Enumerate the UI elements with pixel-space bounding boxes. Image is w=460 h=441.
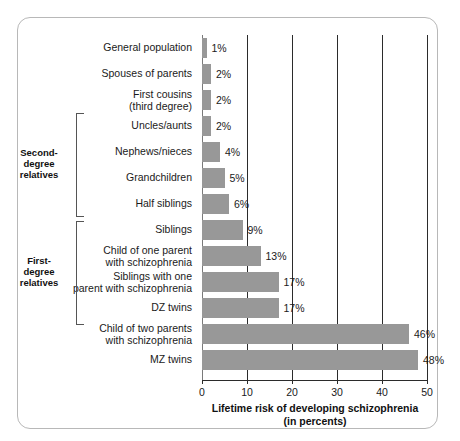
bar-value-label: 48% — [418, 354, 444, 366]
x-tick-label: 20 — [286, 386, 298, 398]
bar-value-label: 5% — [225, 172, 245, 184]
x-tick-0 — [202, 380, 203, 384]
x-tick-40 — [382, 380, 383, 384]
bar[interactable] — [202, 64, 211, 84]
category-label: Half siblings — [12, 198, 192, 210]
bracket-first-degree — [76, 221, 84, 325]
bar-track: 17% — [202, 298, 427, 318]
x-tick-30 — [337, 380, 338, 384]
bar[interactable] — [202, 324, 409, 344]
bar[interactable] — [202, 90, 211, 110]
group-label-first-degree: First- degree relatives — [8, 255, 70, 288]
bar-value-label: 17% — [279, 302, 305, 314]
bar-track: 6% — [202, 194, 427, 214]
bar-chart: General population 1% Spouses of parents… — [0, 0, 460, 441]
bar-track: 46% — [202, 324, 427, 344]
bar[interactable] — [202, 220, 243, 240]
bar[interactable] — [202, 168, 225, 188]
bar-value-label: 9% — [243, 224, 263, 236]
bar[interactable] — [202, 142, 220, 162]
bar-row: General population 1% — [0, 35, 460, 61]
x-tick-10 — [247, 380, 248, 384]
bar-value-label: 4% — [220, 146, 240, 158]
bar-track: 9% — [202, 220, 427, 240]
category-label: Child of two parents with schizophrenia — [12, 323, 192, 346]
bar[interactable] — [202, 116, 211, 136]
bar-row: Siblings 9% — [0, 217, 460, 243]
category-label: Siblings — [12, 224, 192, 236]
bar-value-label: 13% — [261, 250, 287, 262]
bar[interactable] — [202, 194, 229, 214]
bar-value-label: 1% — [207, 42, 227, 54]
bar-value-label: 17% — [279, 276, 305, 288]
category-label: Uncles/aunts — [12, 120, 192, 132]
bar-track: 2% — [202, 64, 427, 84]
bracket-second-degree — [76, 113, 84, 217]
x-tick-50 — [427, 380, 428, 384]
bar-track: 1% — [202, 38, 427, 58]
bar-track: 2% — [202, 90, 427, 110]
x-tick-label: 10 — [241, 386, 253, 398]
category-label: DZ twins — [12, 302, 192, 314]
bar[interactable] — [202, 246, 261, 266]
group-label-second-degree: Second- degree relatives — [8, 147, 70, 180]
category-label: General population — [12, 42, 192, 54]
bar-row: Half siblings 6% — [0, 191, 460, 217]
x-tick-label: 50 — [421, 386, 433, 398]
bar-value-label: 2% — [211, 68, 231, 80]
bar-row: DZ twins 17% — [0, 295, 460, 321]
x-tick-20 — [292, 380, 293, 384]
category-label: Spouses of parents — [12, 68, 192, 80]
x-axis-title: Lifetime risk of developing schizophreni… — [202, 402, 428, 427]
bar-value-label: 46% — [409, 328, 435, 340]
bar-row: First cousins (third degree) 2% — [0, 87, 460, 113]
bar[interactable] — [202, 298, 279, 318]
bar-value-label: 2% — [211, 120, 231, 132]
x-tick-label: 30 — [331, 386, 343, 398]
bar[interactable] — [202, 272, 279, 292]
bar-track: 48% — [202, 350, 427, 370]
bar-row: Child of two parents with schizophrenia … — [0, 321, 460, 347]
bar-track: 2% — [202, 116, 427, 136]
bar-row: Uncles/aunts 2% — [0, 113, 460, 139]
x-tick-label: 40 — [376, 386, 388, 398]
bar-track: 17% — [202, 272, 427, 292]
bar-track: 13% — [202, 246, 427, 266]
x-tick-label: 0 — [199, 386, 205, 398]
bar[interactable] — [202, 350, 418, 370]
bar-row: MZ twins 48% — [0, 347, 460, 373]
bar-row: Spouses of parents 2% — [0, 61, 460, 87]
bar-track: 4% — [202, 142, 427, 162]
bar-value-label: 6% — [229, 198, 249, 210]
bar-value-label: 2% — [211, 94, 231, 106]
category-label: MZ twins — [12, 354, 192, 366]
bar-rows: General population 1% Spouses of parents… — [0, 35, 460, 373]
category-label: First cousins (third degree) — [12, 89, 192, 112]
x-axis-line — [202, 380, 428, 381]
bar-track: 5% — [202, 168, 427, 188]
